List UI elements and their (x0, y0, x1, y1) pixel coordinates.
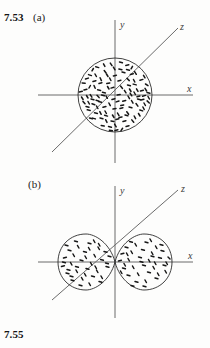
figure-b-canvas: y z x (0, 170, 210, 320)
axis-label-y-a: y (119, 19, 125, 30)
figure-a-sphere: y z x (0, 0, 210, 170)
figure-a-canvas: y z x (0, 0, 210, 170)
axis-label-y-b: y (119, 185, 125, 196)
textbook-page: 7.53 (a) (0, 0, 210, 348)
axis-label-z-a: z (179, 21, 184, 32)
electron-density-stipple-b (62, 239, 171, 287)
figure-b-dumbbell: y z x (0, 170, 210, 320)
axis-label-x-a: x (186, 83, 192, 94)
axis-label-x-b: x (187, 250, 193, 261)
axis-label-z-b: z (180, 183, 185, 194)
problem-number-7-55: 7.55 (4, 328, 24, 340)
